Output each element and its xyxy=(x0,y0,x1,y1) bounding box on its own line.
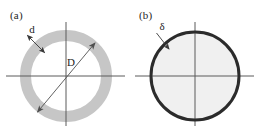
panel-b: (b) δ xyxy=(129,0,258,140)
dimension-label-d: d xyxy=(29,23,35,35)
figure-root: (a) xyxy=(0,0,258,140)
dimension-label-delta: δ xyxy=(159,20,164,32)
panel-a-graphic: d D xyxy=(0,0,129,140)
panel-b-graphic: δ xyxy=(129,0,258,140)
dimension-label-D: D xyxy=(67,56,75,68)
panel-a: (a) xyxy=(0,0,129,140)
